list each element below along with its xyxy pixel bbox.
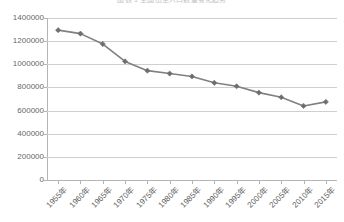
data-point: [256, 90, 261, 95]
x-axis-tick: [214, 181, 215, 184]
data-point: [234, 84, 239, 89]
data-point: [279, 95, 284, 100]
x-axis-tick: [170, 181, 171, 184]
series-markers: [56, 28, 329, 109]
data-point: [189, 74, 194, 79]
y-axis-tick-label: 1200000: [0, 37, 44, 45]
x-axis-tick: [304, 181, 305, 184]
x-axis-tick-label: 1990年: [201, 185, 226, 210]
y-axis-tick-label: 400000: [0, 130, 44, 138]
x-axis-tick: [259, 181, 260, 184]
x-axis-tick: [147, 181, 148, 184]
series-line: [58, 30, 326, 106]
x-axis-tick-label: 2000年: [246, 185, 271, 210]
x-axis-tick: [125, 181, 126, 184]
x-axis-tick: [192, 181, 193, 184]
data-point: [145, 68, 150, 73]
y-axis-tick-label: 1000000: [0, 60, 44, 68]
y-axis-tick-label: 600000: [0, 107, 44, 115]
x-axis-tick-label: 1980年: [156, 185, 181, 210]
x-axis-tick-label: 2015年: [313, 185, 338, 210]
data-point: [56, 28, 61, 33]
x-axis-tick: [80, 181, 81, 184]
line-chart: 图表 1 全国出生人口数量变化趋势 0200000400000600000800…: [0, 0, 344, 222]
plot-area: [47, 18, 337, 180]
y-axis-tick-label: 800000: [0, 83, 44, 91]
x-axis-tick-label: 1970年: [112, 185, 137, 210]
y-axis-tick-label: 200000: [0, 153, 44, 161]
x-axis-tick-label: 1960年: [67, 185, 92, 210]
y-axis-labels: 0200000400000600000800000100000012000001…: [0, 0, 44, 222]
x-axis-tick: [103, 181, 104, 184]
series-layer: [47, 18, 337, 180]
data-point: [212, 80, 217, 85]
x-axis-tick-label: 1995年: [223, 185, 248, 210]
chart-title: 图表 1 全国出生人口数量变化趋势: [0, 0, 344, 3]
y-axis-tick-label: 1400000: [0, 14, 44, 22]
x-axis-tick: [58, 181, 59, 184]
x-axis-labels: 1955年1960年1965年1970年1975年1980年1985年1990年…: [47, 181, 337, 222]
x-axis-tick: [281, 181, 282, 184]
x-axis-tick-label: 1965年: [90, 185, 115, 210]
x-axis-tick-label: 1955年: [45, 185, 70, 210]
x-axis-tick-label: 1975年: [134, 185, 159, 210]
x-axis-tick-label: 2005年: [268, 185, 293, 210]
x-axis-tick: [237, 181, 238, 184]
x-axis-tick-label: 1985年: [179, 185, 204, 210]
data-point: [301, 103, 306, 108]
data-point: [323, 99, 328, 104]
data-point: [167, 71, 172, 76]
x-axis-tick-label: 2010年: [290, 185, 315, 210]
data-point: [78, 31, 83, 36]
x-axis-tick: [326, 181, 327, 184]
y-axis-tick-label: 0: [0, 176, 44, 184]
